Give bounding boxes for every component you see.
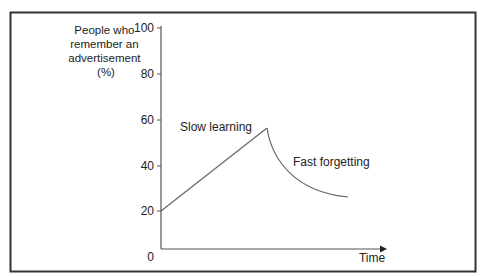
svg-text:20: 20 — [141, 204, 155, 218]
svg-text:100: 100 — [134, 21, 154, 35]
svg-text:60: 60 — [141, 113, 155, 127]
annotation-slow-learning: Slow learning — [180, 120, 252, 134]
svg-text:0: 0 — [147, 250, 154, 264]
learning-forgetting-chart: People who remember an advertisement (%)… — [0, 0, 482, 276]
svg-text:40: 40 — [141, 159, 155, 173]
x-axis-title: Time — [359, 251, 386, 265]
svg-text:80: 80 — [141, 67, 155, 81]
annotation-fast-forgetting: Fast forgetting — [293, 155, 370, 169]
